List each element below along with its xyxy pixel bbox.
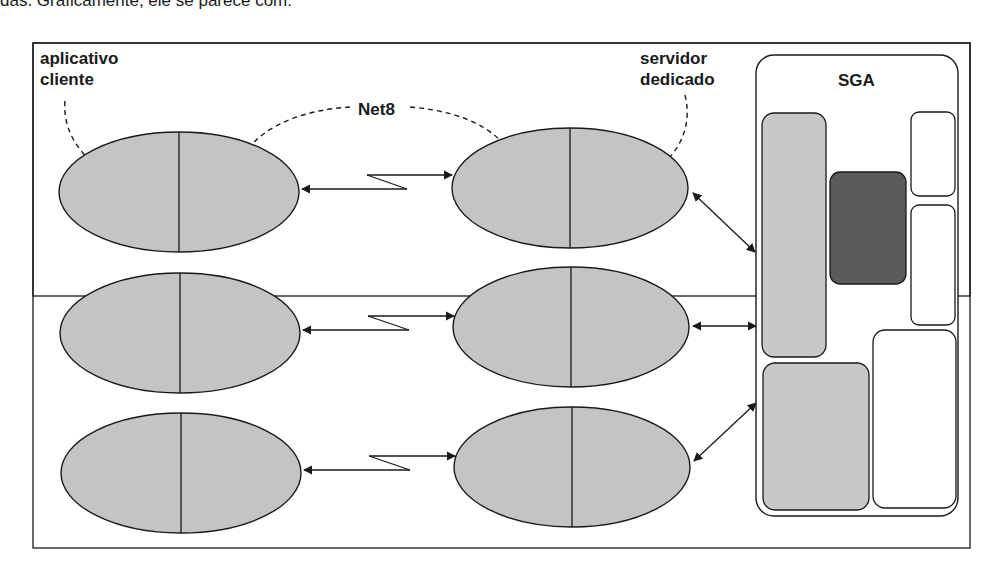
sga-tall-light-block[interactable] <box>762 113 826 357</box>
server-sga-link-1 <box>693 193 755 252</box>
row-1 <box>59 128 755 252</box>
sga-bottom-white-block[interactable] <box>873 330 956 508</box>
server-sga-link-3 <box>694 403 756 461</box>
sga-dark-block[interactable] <box>830 172 906 284</box>
net8-link-zigzag-3 <box>369 456 410 470</box>
row-3 <box>61 403 756 533</box>
label-net8: Net8 <box>358 100 395 119</box>
label-servidor: servidor <box>640 49 707 68</box>
net8-link-zigzag-1 <box>367 175 407 189</box>
label-aplicativo: aplicativo <box>40 49 118 68</box>
architecture-diagram: aplicativo cliente Net8 servidor dedicad… <box>0 0 1005 565</box>
label-cliente: cliente <box>40 70 94 89</box>
label-dedicado: dedicado <box>640 70 715 89</box>
sga-small-white-block-top[interactable] <box>911 112 955 196</box>
net8-link-zigzag-2 <box>368 316 409 330</box>
row-2 <box>60 267 756 393</box>
sga-label: SGA <box>838 71 875 90</box>
sga-bottom-light-block[interactable] <box>763 363 869 510</box>
sga-block: SGA <box>756 55 958 516</box>
sga-small-white-block-middle[interactable] <box>911 205 955 325</box>
